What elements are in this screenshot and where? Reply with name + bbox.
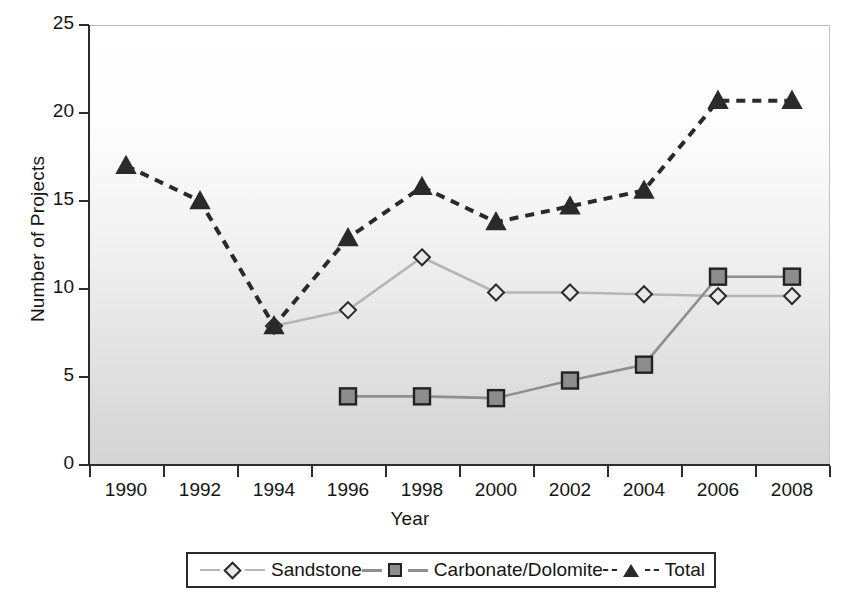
y-tick-mark (79, 112, 89, 114)
series-line-total (126, 101, 792, 326)
y-tick-mark (79, 464, 89, 466)
x-tick-mark (681, 466, 683, 477)
x-tick-mark (459, 466, 461, 477)
legend-line-total-right (645, 569, 659, 571)
legend-line-carbonate (362, 569, 382, 572)
series-layer (89, 25, 829, 465)
x-tick-mark (607, 466, 609, 477)
square-icon (388, 563, 402, 577)
y-tick-mark (79, 376, 89, 378)
chart-figure: Number of Projects Year 2520151050 19901… (0, 0, 843, 601)
data-point-carbonate-dolomite (562, 373, 578, 389)
data-point-sandstone (784, 288, 800, 304)
y-tick-label: 0 (18, 452, 74, 474)
data-point-carbonate-dolomite (784, 269, 800, 285)
y-tick-label: 25 (18, 12, 74, 34)
x-tick-label: 2004 (604, 479, 684, 501)
x-tick-mark (311, 466, 313, 477)
data-point-sandstone (710, 288, 726, 304)
data-point-sandstone (562, 285, 578, 301)
x-tick-label: 1996 (308, 479, 388, 501)
x-tick-mark (163, 466, 165, 477)
x-tick-mark (829, 466, 831, 477)
data-point-total (191, 192, 209, 208)
data-point-sandstone (636, 286, 652, 302)
data-point-total (117, 157, 135, 173)
triangle-icon (623, 564, 639, 577)
plot-right-border (829, 25, 830, 465)
legend-label-carbonate-dolomite: Carbonate/Dolomite (434, 559, 603, 581)
data-point-sandstone (488, 285, 504, 301)
x-tick-label: 1990 (86, 479, 166, 501)
plot-top-border (90, 25, 830, 26)
x-tick-mark (385, 466, 387, 477)
x-tick-label: 1998 (382, 479, 462, 501)
legend-label-sandstone: Sandstone (271, 559, 362, 581)
legend-label-total: Total (665, 559, 705, 581)
x-tick-label: 2006 (678, 479, 758, 501)
x-tick-label: 2008 (752, 479, 832, 501)
legend-item-total[interactable]: Total (603, 559, 705, 581)
y-tick-label: 20 (18, 100, 74, 122)
x-tick-label: 2000 (456, 479, 536, 501)
x-axis-title: Year (330, 508, 490, 530)
y-tick-mark (79, 24, 89, 26)
x-tick-label: 2002 (530, 479, 610, 501)
data-point-sandstone (414, 249, 430, 265)
data-point-carbonate-dolomite (636, 357, 652, 373)
y-tick-mark (79, 200, 89, 202)
legend-item-sandstone[interactable]: Sandstone (200, 559, 362, 581)
y-tick-mark (79, 288, 89, 290)
data-point-carbonate-dolomite (488, 390, 504, 406)
x-tick-mark (755, 466, 757, 477)
chart-legend: Sandstone Carbonate/Dolomite Total (186, 552, 716, 588)
y-tick-label: 5 (18, 364, 74, 386)
y-tick-label: 15 (18, 188, 74, 210)
y-tick-label: 10 (18, 276, 74, 298)
x-tick-label: 1994 (234, 479, 314, 501)
legend-line-total (603, 569, 617, 571)
data-point-carbonate-dolomite (710, 269, 726, 285)
data-point-total (413, 178, 431, 194)
y-axis-line (88, 25, 90, 466)
x-tick-label: 1992 (160, 479, 240, 501)
data-point-carbonate-dolomite (414, 388, 430, 404)
plot-area (89, 25, 829, 465)
legend-line-sandstone (200, 569, 220, 571)
legend-line-carbonate-right (408, 569, 428, 572)
legend-line-sandstone-right (245, 569, 265, 571)
x-tick-mark (237, 466, 239, 477)
y-axis-title: Number of Projects (27, 119, 49, 359)
x-tick-mark (533, 466, 535, 477)
legend-item-carbonate-dolomite[interactable]: Carbonate/Dolomite (362, 559, 603, 581)
diamond-icon (223, 561, 241, 579)
x-tick-mark (89, 466, 91, 477)
data-point-total (339, 229, 357, 245)
data-point-carbonate-dolomite (340, 388, 356, 404)
